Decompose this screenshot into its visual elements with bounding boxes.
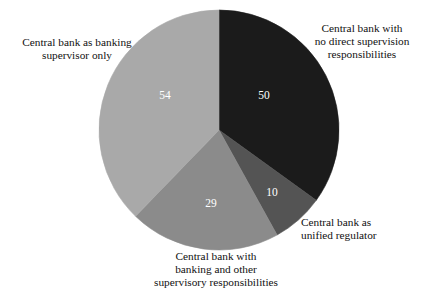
slice-value-50: 50 [258,89,270,101]
callout-unified-regulator: Central bank as unified regulator [301,216,423,242]
callout-no-direct-supervision: Central bank with no direct supervision … [300,22,424,62]
callout-banking-supervisor-only: Central bank as banking supervisor only [3,36,151,62]
slice-value-29: 29 [205,197,217,209]
callout-banking-and-other: Central bank with banking and other supe… [118,250,314,290]
pie-chart-figure: 50 10 29 54 Central bank as banking supe… [0,0,424,297]
slice-value-54: 54 [159,89,171,101]
slice-value-10: 10 [266,186,278,198]
